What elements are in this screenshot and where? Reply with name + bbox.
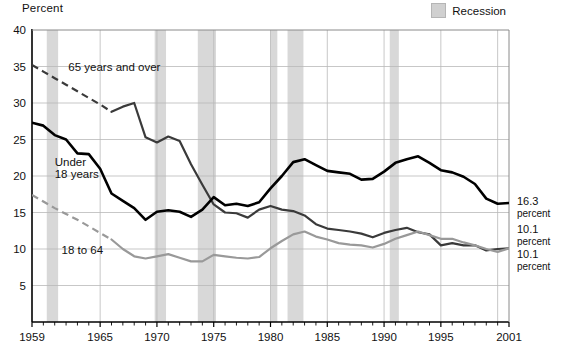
end-label-under-18-unit: percent [517,208,551,219]
y-tick-label: 5 [20,280,26,292]
x-tick-label: 1965 [87,331,113,343]
recession-band [509,30,518,322]
plot-svg: 5101520253035401959196519701975198019851… [0,0,563,363]
end-label-18-to-64-value: 10.1 [517,248,538,260]
x-tick-label: 1980 [258,331,284,343]
label-18-to-64: 18 to 64 [62,244,104,256]
x-tick-label: 1995 [428,331,454,343]
y-tick-label: 35 [13,61,26,73]
end-label-under-18-value: 16.3 [517,195,538,207]
x-tick-label: 1959 [19,331,45,343]
label-under-18: Under [55,156,86,168]
label-65-over: 65 years and over [68,61,160,73]
y-tick-label: 40 [13,24,26,36]
x-tick-label: 1975 [201,331,227,343]
x-tick-label: 1985 [314,331,340,343]
x-tick-label: 2001 [496,331,522,343]
x-tick-label: 1990 [371,331,397,343]
end-label-65-over-unit: percent [517,236,551,247]
y-tick-label: 30 [13,97,26,109]
end-label-18-to-64-unit: percent [517,261,551,272]
y-tick-label: 10 [13,243,26,255]
y-tick-label: 15 [13,207,26,219]
label-under-18-line2: 18 years [55,168,99,180]
end-label-65-over-value: 10.1 [517,223,538,235]
y-tick-label: 25 [13,134,26,146]
x-tick-label: 1970 [144,331,170,343]
y-tick-label: 20 [13,170,26,182]
poverty-rate-line-chart: Percent Recession 5101520253035401959196… [0,0,563,363]
